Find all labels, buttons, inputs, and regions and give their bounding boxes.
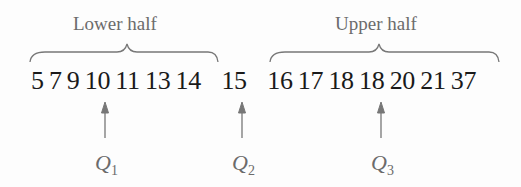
q1-arrow: [102, 102, 109, 138]
value: 5: [31, 66, 44, 96]
q1-label: Q1: [95, 150, 118, 179]
value-q3: 18: [359, 66, 384, 96]
value: 7: [49, 66, 62, 96]
value: 9: [67, 66, 80, 96]
value: 21: [420, 66, 445, 96]
q2-arrow: [239, 102, 246, 138]
data-values-row: 5 7 9 10 11 13 14 15 16 17 18 18 20 21 3…: [31, 66, 476, 96]
q2-label: Q2: [232, 150, 255, 179]
value: 13: [145, 66, 170, 96]
upper-half-brace: [270, 44, 499, 62]
value: 20: [390, 66, 415, 96]
value-median: 15: [221, 66, 246, 96]
value: 18: [328, 66, 353, 96]
value: 17: [298, 66, 323, 96]
q3-label: Q3: [371, 150, 394, 179]
quartile-diagram: Lower half Upper half 5 7 9 10 11 13 14 …: [0, 0, 521, 187]
value: 11: [115, 66, 139, 96]
value-q1: 10: [85, 66, 110, 96]
value: 37: [451, 66, 476, 96]
lower-half-brace: [30, 44, 218, 62]
value: 14: [176, 66, 201, 96]
value: 16: [267, 66, 292, 96]
q3-arrow: [378, 102, 385, 138]
